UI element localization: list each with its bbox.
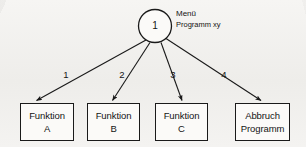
root-caption-line1: Menü [176, 8, 221, 20]
edge-label-1: 1 [60, 69, 72, 80]
edge-4-line [166, 39, 261, 101]
node-funktion-b-line1: Funktion [96, 110, 132, 121]
edge-1-line [37, 40, 147, 101]
node-funktion-a-line2: A [44, 123, 50, 134]
node-abbruch-line2: Programm [241, 123, 285, 134]
node-funktion-a[interactable]: Funktion A [20, 103, 74, 141]
node-funktion-b[interactable]: Funktion B [87, 103, 140, 141]
root-caption-line2: Programm xy [176, 20, 221, 31]
node-funktion-a-line1: Funktion [29, 110, 65, 121]
diagram-canvas: 1 Menü Programm xy 1 2 3 4 Funktion A Fu… [0, 0, 306, 147]
edge-label-4: 4 [218, 69, 230, 80]
node-funktion-b-line2: B [110, 123, 116, 134]
node-abbruch-programm[interactable]: Abbruch Programm [235, 103, 290, 141]
edge-label-3: 3 [167, 69, 179, 80]
node-abbruch-line1: Abbruch [245, 110, 280, 121]
node-funktion-c-line2: C [178, 123, 185, 134]
node-funktion-c-line1: Funktion [164, 110, 200, 121]
edge-label-2: 2 [116, 69, 128, 80]
root-node-number: 1 [145, 20, 165, 31]
root-node-caption: Menü Programm xy [176, 8, 221, 30]
node-funktion-c[interactable]: Funktion C [155, 103, 208, 141]
